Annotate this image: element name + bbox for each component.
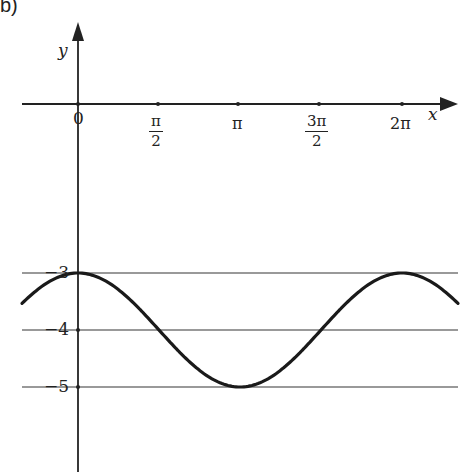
y-axis-arrow-icon	[72, 22, 84, 41]
x-tick-0	[76, 102, 80, 106]
x-tick-label-3pi-half: 3π 2	[305, 114, 328, 149]
y-tick-label-minus4: −4	[44, 321, 69, 338]
x-tick-label-2pi: 2π	[390, 116, 411, 132]
y-tick-minus5	[76, 385, 80, 389]
x-axis-label: x	[428, 106, 438, 123]
x-tick-label-pi: π	[232, 116, 243, 132]
origin-label: 0	[73, 110, 84, 127]
x-tick-2pi	[400, 102, 404, 106]
y-tick-label-minus3: −3	[44, 264, 69, 281]
x-tick-3pi-half	[317, 102, 321, 106]
x-tick-label-pi-half: π 2	[149, 114, 163, 149]
x-axis-arrow-icon	[440, 97, 458, 111]
chart-canvas	[0, 0, 461, 472]
y-axis-label: y	[58, 42, 68, 59]
y-tick-minus4	[76, 328, 80, 332]
y-tick-label-minus5: −5	[44, 378, 69, 395]
x-tick-pi	[236, 102, 240, 106]
x-tick-pi-half	[156, 102, 160, 106]
